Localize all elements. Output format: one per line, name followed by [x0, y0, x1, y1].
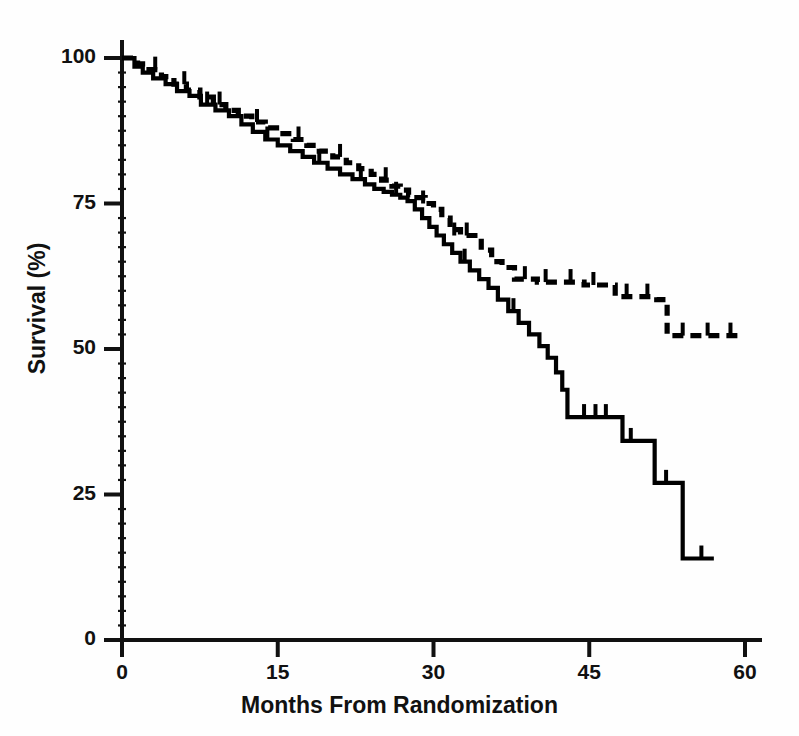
- plot-axes: [122, 40, 762, 640]
- x-tick-label-0: 0: [82, 660, 162, 684]
- y-tick-label-0: 0: [0, 626, 96, 650]
- x-axis-title: Months From Randomization: [0, 692, 799, 719]
- x-tick-label-30: 30: [394, 660, 474, 684]
- y-tick-label-25: 25: [0, 481, 96, 505]
- series-solid-curve: [122, 58, 714, 559]
- y-axis-title: Survival (%): [24, 189, 51, 429]
- x-tick-label-45: 45: [549, 660, 629, 684]
- y-tick-label-100: 100: [0, 44, 96, 68]
- x-tick-label-15: 15: [238, 660, 318, 684]
- x-axis-major-ticks: [122, 640, 745, 657]
- x-tick-label-60: 60: [705, 660, 785, 684]
- kaplan-meier-plot: [0, 0, 799, 736]
- censor-marks-layer: [155, 57, 730, 559]
- series-layer: [122, 58, 740, 559]
- survival-chart-figure: 0255075100 015304560 Months From Randomi…: [0, 0, 799, 736]
